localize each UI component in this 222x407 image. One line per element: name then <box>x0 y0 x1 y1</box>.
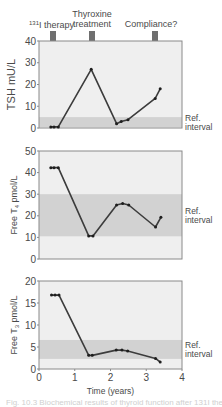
ref-interval-label: interval <box>185 349 213 359</box>
data-point <box>121 202 124 205</box>
y-tick-label: 20 <box>25 210 37 221</box>
free-t4-chart: 01020304050Free T4 pmol/LRef.interval <box>9 146 213 265</box>
data-point <box>159 87 162 90</box>
data-point <box>127 204 130 207</box>
data-point <box>154 97 157 100</box>
data-point <box>159 360 162 363</box>
y-tick-label: 30 <box>25 189 37 200</box>
y-axis-label: Free T3 pmol/L <box>9 295 20 354</box>
plot-area <box>39 41 182 128</box>
y-tick-label: 20 <box>25 79 37 90</box>
annotation-label: Thyroxine <box>72 9 112 19</box>
x-tick-label: 2 <box>108 372 114 383</box>
y-tick-label: 10 <box>25 320 37 331</box>
data-point <box>57 166 60 169</box>
data-point <box>115 349 118 352</box>
data-point <box>91 354 94 357</box>
x-axis-label: Time (years) <box>87 386 135 396</box>
data-point <box>53 125 56 128</box>
x-tick-label: 0 <box>36 372 42 383</box>
x-tick-label: 3 <box>143 372 149 383</box>
data-point <box>154 357 157 360</box>
data-point <box>127 118 130 121</box>
data-point <box>54 294 57 297</box>
x-tick-label: 1 <box>72 372 78 383</box>
reference-interval-band <box>39 194 182 236</box>
data-point <box>91 234 94 237</box>
data-point <box>50 294 53 297</box>
data-point <box>115 204 118 207</box>
data-point <box>115 122 118 125</box>
data-point <box>58 294 61 297</box>
data-point <box>90 68 93 71</box>
tsh-chart: 010203040TSH mU/LRef.interval <box>5 36 213 134</box>
annotation-label: Compliance? <box>125 19 178 29</box>
y-tick-label: 5 <box>30 342 36 353</box>
data-point <box>120 349 123 352</box>
data-point <box>49 125 52 128</box>
y-tick-label: 10 <box>25 232 37 243</box>
figure-caption: Fig. 10.3 Biochemical results of thyroid… <box>6 398 222 407</box>
y-tick-label: 30 <box>25 57 37 68</box>
annotation-label: 131I therapy <box>29 20 75 30</box>
free-t3-chart: 05101520Free T3 pmol/LRef.interval01234T… <box>9 276 213 397</box>
annotation-label: treatment <box>73 19 112 29</box>
data-point <box>87 354 90 357</box>
data-point <box>49 166 52 169</box>
y-tick-label: 0 <box>30 254 36 265</box>
ref-interval-label: interval <box>185 215 213 225</box>
y-tick-label: 0 <box>30 123 36 134</box>
y-tick-label: 50 <box>25 146 37 157</box>
x-tick-label: 4 <box>179 372 185 383</box>
data-point <box>159 216 162 219</box>
y-tick-label: 15 <box>25 298 37 309</box>
y-axis-label: Free T4 pmol/L <box>9 175 20 234</box>
data-point <box>120 120 123 123</box>
data-point <box>154 226 157 229</box>
data-point <box>53 166 56 169</box>
y-tick-label: 40 <box>25 36 37 47</box>
y-axis-label: TSH mU/L <box>5 59 17 110</box>
y-tick-label: 10 <box>25 101 37 112</box>
data-point <box>126 349 129 352</box>
data-point <box>87 234 90 237</box>
ref-interval-label: interval <box>185 122 213 132</box>
y-tick-label: 40 <box>25 167 37 178</box>
reference-interval-band <box>39 340 182 359</box>
data-point <box>57 125 60 128</box>
y-tick-label: 20 <box>25 276 37 287</box>
